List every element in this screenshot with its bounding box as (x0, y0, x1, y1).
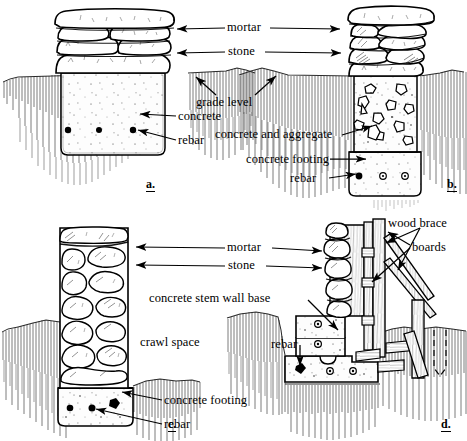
label-concrete-footing-c: concrete footing (164, 394, 247, 407)
ground-hatch-b-right (420, 70, 466, 194)
foundation-details-figure: mortar stone grade level concrete rebar … (0, 0, 467, 441)
form-board (378, 360, 404, 372)
rebar-dot (350, 368, 357, 375)
rebar-dot (67, 405, 74, 412)
panel-c-drawing (58, 227, 133, 426)
label-rebar-b: rebar (290, 172, 316, 185)
ground-hatch-b-tail (374, 200, 418, 211)
label-stone-bottom: stone (228, 259, 255, 272)
label-crawl-space: crawl space (140, 336, 200, 349)
label-rebar-a: rebar (178, 134, 204, 147)
form-board (356, 349, 380, 361)
ground-hatch-d-below (285, 384, 380, 440)
rebar-dot (356, 173, 363, 180)
rebar-dot (65, 127, 71, 133)
label-concrete-stem-wall-base: concrete stem wall base (149, 292, 270, 305)
label-mortar-top: mortar (227, 21, 261, 34)
panel-marker-d: d. (441, 418, 451, 432)
label-concrete-and-aggregate: concrete and aggregate (215, 128, 332, 141)
label-concrete-a: concrete (178, 110, 221, 123)
rebar-dot (327, 368, 334, 375)
ground-hatch-c-right (133, 379, 200, 441)
rebar-dot (315, 321, 322, 328)
panel-marker-a: a. (146, 178, 155, 192)
label-wood-brace: wood brace (388, 217, 447, 230)
label-stone-top: stone (228, 45, 255, 58)
label-boards: boards (412, 241, 446, 254)
rebar-dot (130, 127, 136, 133)
rebar-dot (380, 173, 387, 180)
label-mortar-bottom: mortar (227, 241, 261, 254)
rebar-dot (96, 127, 102, 133)
rebar-dot (402, 173, 409, 180)
panel-marker-c: c. (168, 418, 176, 432)
panel-a-drawing (55, 9, 174, 155)
label-grade-level: grade level (196, 96, 252, 109)
label-rebar-d: rebar (271, 338, 297, 351)
rebar-dot (315, 341, 322, 348)
panel-marker-b: b. (447, 178, 457, 192)
rebar-dot (89, 405, 96, 412)
form-board (373, 219, 385, 357)
label-concrete-footing-b: concrete footing (246, 153, 329, 166)
